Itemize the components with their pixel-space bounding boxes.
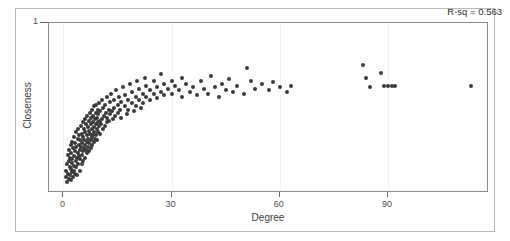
data-point [112, 106, 116, 110]
x-axis-tick-label: 30 [151, 199, 191, 209]
scatter-plot-figure: 1 Closeness 0306090 Degree R-sq = 0.563 [0, 0, 510, 241]
plot-panel [48, 22, 488, 192]
data-point [177, 88, 181, 92]
x-axis-tick-label: 0 [42, 199, 82, 209]
y-axis-title: Closeness [22, 46, 33, 166]
data-point [159, 72, 163, 76]
data-point [278, 85, 282, 89]
data-point [123, 93, 127, 97]
data-point [135, 79, 139, 83]
data-point [184, 82, 188, 86]
data-point [267, 88, 271, 92]
r-squared-annotation: R-sq = 0.563 [447, 6, 502, 17]
data-point [393, 84, 397, 88]
data-point [137, 87, 141, 91]
gridline-x-0 [63, 23, 64, 191]
data-point [95, 138, 99, 142]
data-point [103, 103, 107, 107]
data-point [105, 95, 109, 99]
x-axis-tick-mark-0 [62, 192, 63, 197]
data-point [144, 84, 148, 88]
data-point [191, 85, 195, 89]
x-axis-tick-label: 90 [367, 199, 407, 209]
data-point [134, 104, 138, 108]
data-point [114, 88, 118, 92]
data-point [148, 88, 152, 92]
data-point [100, 98, 104, 102]
data-point [170, 92, 174, 96]
data-point [217, 95, 221, 99]
y-axis-tick-label: 1 [14, 15, 38, 27]
x-axis-title: Degree [48, 212, 488, 223]
data-point [180, 76, 184, 80]
data-point [132, 109, 136, 113]
data-point [143, 76, 147, 80]
data-point [188, 90, 192, 94]
data-point [364, 76, 368, 80]
data-point [83, 156, 87, 160]
data-point [162, 82, 166, 86]
data-point [213, 85, 217, 89]
data-point [245, 66, 249, 70]
data-point [173, 84, 177, 88]
data-point [206, 92, 210, 96]
data-point [128, 82, 132, 86]
data-point [112, 98, 116, 102]
data-point [141, 101, 145, 105]
x-axis-tick-mark-30 [171, 192, 172, 197]
data-point [121, 85, 125, 89]
data-point [119, 100, 123, 104]
data-point [253, 87, 257, 91]
data-point [155, 85, 159, 89]
data-point [199, 79, 203, 83]
data-point [170, 79, 174, 83]
data-point [125, 112, 129, 116]
x-axis-tick-mark-90 [387, 192, 388, 197]
data-point [180, 95, 184, 99]
data-point [195, 93, 199, 97]
data-point [148, 98, 152, 102]
gridline-x-60 [280, 23, 281, 191]
data-point [368, 85, 372, 89]
data-point [224, 88, 228, 92]
data-point [227, 77, 231, 81]
data-point [220, 82, 224, 86]
x-axis-tick-mark-60 [279, 192, 280, 197]
data-point [152, 92, 156, 96]
data-point [109, 92, 113, 96]
data-point [249, 79, 253, 83]
data-point [289, 84, 293, 88]
x-axis-tick-label: 60 [259, 199, 299, 209]
data-point [130, 90, 134, 94]
data-point [231, 90, 235, 94]
data-point [78, 169, 82, 173]
data-point [75, 173, 79, 177]
data-point [361, 63, 365, 67]
gridline-x-90 [388, 23, 389, 191]
data-point [271, 80, 275, 84]
y-axis-tick-mark [40, 22, 48, 23]
data-point [242, 92, 246, 96]
data-point [202, 87, 206, 91]
data-point [209, 74, 213, 78]
data-point [260, 82, 264, 86]
gridline-x-30 [172, 23, 173, 191]
data-point [285, 90, 289, 94]
data-point [98, 132, 102, 136]
data-point [162, 93, 166, 97]
data-point [117, 95, 121, 99]
data-point [155, 96, 159, 100]
data-point [118, 108, 122, 112]
data-point [166, 87, 170, 91]
data-point [103, 124, 107, 128]
data-point [119, 116, 123, 120]
data-point [139, 106, 143, 110]
data-point [152, 79, 156, 83]
data-point [126, 108, 130, 112]
data-point [379, 71, 383, 75]
data-point [469, 84, 473, 88]
data-point [235, 84, 239, 88]
